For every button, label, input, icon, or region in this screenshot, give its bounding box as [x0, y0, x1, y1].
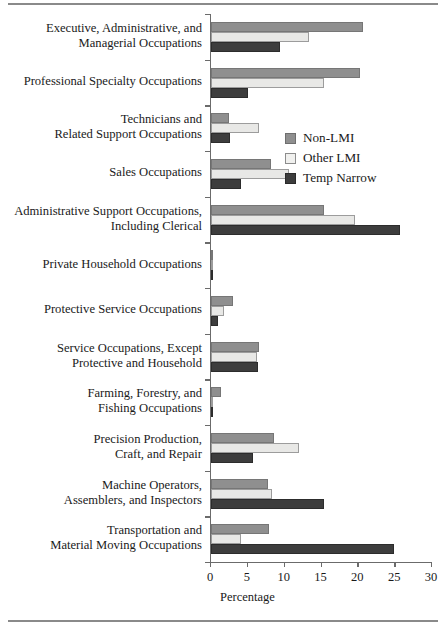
x-axis-tick — [284, 562, 285, 567]
category-label-line: Precision Production, — [4, 432, 202, 447]
bar — [211, 306, 224, 316]
bar — [211, 544, 394, 554]
bar — [211, 270, 213, 280]
y-axis-tick — [205, 14, 210, 15]
x-axis-tick-label: 5 — [232, 570, 262, 585]
y-axis-tick — [205, 151, 210, 152]
bar — [211, 316, 218, 326]
x-axis-tick — [357, 562, 358, 567]
bar — [211, 443, 299, 453]
x-axis-tick — [210, 562, 211, 567]
bar — [211, 433, 274, 443]
bar — [211, 88, 248, 98]
category-label-line: Protective and Household — [4, 356, 202, 371]
category-label: Professional Specialty Occupations — [4, 74, 202, 89]
x-axis-tick — [431, 562, 432, 567]
bar — [211, 407, 213, 417]
bar — [211, 179, 241, 189]
legend-label-other-lmi: Other LMI — [303, 150, 361, 166]
bar — [211, 42, 280, 52]
bar — [211, 499, 324, 509]
figure: Executive, Administrative, andManagerial… — [0, 0, 446, 633]
x-axis-tick — [321, 562, 322, 567]
category-label-line: Technicians and — [4, 112, 202, 127]
y-axis-tick — [205, 242, 210, 243]
x-axis-tick-label: 25 — [379, 570, 409, 585]
bar — [211, 159, 271, 169]
y-axis-tick — [205, 60, 210, 61]
bar — [211, 524, 269, 534]
x-axis-tick-label: 20 — [342, 570, 372, 585]
bar — [211, 215, 355, 225]
category-label: Technicians andRelated Support Occupatio… — [4, 112, 202, 142]
x-axis-tick — [247, 562, 248, 567]
y-axis-tick — [205, 471, 210, 472]
bar — [211, 32, 309, 42]
bar — [211, 352, 257, 362]
x-axis-tick-label: 10 — [269, 570, 299, 585]
y-axis-tick — [205, 288, 210, 289]
legend-item-temp-narrow: Temp Narrow — [285, 168, 425, 188]
y-axis-tick — [205, 334, 210, 335]
bar — [211, 260, 213, 270]
category-label-line: Transportation and — [4, 523, 202, 538]
plot-area: 051015202530 Percentage — [210, 14, 432, 562]
x-axis-tick-label: 0 — [195, 570, 225, 585]
bar — [211, 534, 241, 544]
category-label-line: Professional Specialty Occupations — [4, 74, 202, 89]
category-label-line: Craft, and Repair — [4, 447, 202, 462]
x-axis-tick-label: 15 — [306, 570, 336, 585]
x-axis-tick-label: 30 — [416, 570, 446, 585]
bar — [211, 296, 233, 306]
legend-item-other-lmi: Other LMI — [285, 148, 425, 168]
bar — [211, 489, 272, 499]
category-label: Precision Production,Craft, and Repair — [4, 432, 202, 462]
legend-label-temp-narrow: Temp Narrow — [303, 170, 376, 186]
bar — [211, 250, 213, 260]
category-label-line: Service Occupations, Except — [4, 341, 202, 356]
category-label-line: Private Household Occupations — [4, 257, 202, 272]
category-label-line: Managerial Occupations — [4, 36, 202, 51]
category-label: Farming, Forestry, andFishing Occupation… — [4, 386, 202, 416]
legend-label-non-lmi: Non-LMI — [303, 130, 354, 146]
y-axis-tick — [205, 105, 210, 106]
legend-swatch-icon-other-lmi — [285, 153, 296, 164]
category-label-line: Farming, Forestry, and — [4, 386, 202, 401]
legend-item-non-lmi: Non-LMI — [285, 128, 425, 148]
bar — [211, 479, 268, 489]
bar — [211, 342, 259, 352]
y-axis-tick — [205, 197, 210, 198]
category-label-line: Machine Operators, — [4, 478, 202, 493]
bottom-rule — [8, 620, 438, 622]
bar — [211, 453, 253, 463]
bar — [211, 78, 324, 88]
category-label: Transportation andMaterial Moving Occupa… — [4, 523, 202, 553]
category-label-line: Protective Service Occupations — [4, 302, 202, 317]
category-label-line: Fishing Occupations — [4, 401, 202, 416]
bar — [211, 205, 324, 215]
bar — [211, 225, 400, 235]
category-label-line: Sales Occupations — [4, 165, 202, 180]
category-label: Machine Operators,Assemblers, and Inspec… — [4, 478, 202, 508]
category-label-line: Executive, Administrative, and — [4, 21, 202, 36]
y-axis-tick — [205, 379, 210, 380]
y-axis-tick — [205, 425, 210, 426]
bar — [211, 397, 213, 407]
category-label-line: Including Clerical — [4, 219, 202, 234]
top-rule — [8, 3, 438, 5]
category-label: Service Occupations, ExceptProtective an… — [4, 341, 202, 371]
category-label-line: Related Support Occupations — [4, 127, 202, 142]
bar — [211, 113, 229, 123]
y-axis-tick — [205, 516, 210, 517]
bar — [211, 22, 363, 32]
category-label-line: Assemblers, and Inspectors — [4, 493, 202, 508]
bar — [211, 169, 289, 179]
category-label: Private Household Occupations — [4, 257, 202, 272]
category-label: Executive, Administrative, andManagerial… — [4, 21, 202, 51]
bar — [211, 123, 259, 133]
x-axis-label: Percentage — [220, 590, 275, 605]
legend: Non-LMI Other LMI Temp Narrow — [285, 128, 425, 188]
x-axis-tick — [394, 562, 395, 567]
legend-swatch-icon-temp-narrow — [285, 173, 296, 184]
bar — [211, 362, 258, 372]
